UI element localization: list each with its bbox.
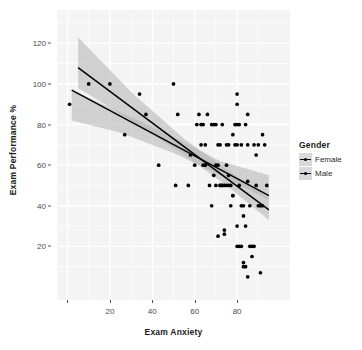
data-point <box>235 92 239 96</box>
data-point <box>199 143 203 147</box>
data-point <box>246 180 250 184</box>
data-point <box>216 163 220 167</box>
data-point <box>265 184 269 188</box>
data-point <box>227 143 231 147</box>
data-point <box>216 234 220 238</box>
scatter-plot-figure: Exam Performance % 20406080100120 204060… <box>0 0 362 350</box>
x-tick-label: 80 <box>233 307 242 316</box>
data-point <box>231 194 235 198</box>
data-point <box>87 82 91 86</box>
data-point <box>246 275 250 279</box>
legend-key-icon <box>299 167 312 180</box>
data-point <box>172 82 176 86</box>
legend: Gender FemaleMale <box>299 140 361 181</box>
data-point <box>246 143 250 147</box>
data-point <box>237 184 241 188</box>
data-point <box>227 173 231 177</box>
data-point <box>223 184 227 188</box>
y-tick-label: 80 <box>18 120 46 129</box>
data-point <box>176 113 180 117</box>
y-axis-title-text: Exam Performance % <box>8 105 18 196</box>
data-point <box>144 113 148 117</box>
data-point <box>252 245 256 249</box>
data-point <box>229 204 233 208</box>
data-point <box>263 143 267 147</box>
y-tick-mark <box>48 43 51 44</box>
data-point <box>237 123 241 127</box>
x-tick-mark <box>152 300 153 303</box>
data-point <box>220 123 224 127</box>
data-point <box>214 184 218 188</box>
data-point <box>231 133 235 137</box>
legend-item-male[interactable]: Male <box>299 167 361 180</box>
data-point <box>239 245 243 249</box>
legend-item-label: Male <box>315 169 332 178</box>
data-point <box>235 102 239 106</box>
data-point <box>193 163 197 167</box>
data-point <box>254 184 258 188</box>
y-tick-label: 120 <box>18 39 46 48</box>
legend-items: FemaleMale <box>299 153 361 180</box>
legend-item-label: Female <box>315 155 342 164</box>
data-point <box>261 133 265 137</box>
x-axis-tick-labels: 20406080 <box>57 300 290 322</box>
data-point <box>195 123 199 127</box>
data-point <box>208 184 212 188</box>
y-tick-mark <box>48 83 51 84</box>
regression-line-male <box>72 90 269 196</box>
y-tick-label: 60 <box>18 161 46 170</box>
data-point <box>212 173 216 177</box>
legend-item-female[interactable]: Female <box>299 153 361 166</box>
data-point <box>214 123 218 127</box>
data-point <box>206 113 210 117</box>
data-point <box>250 255 254 259</box>
data-point <box>223 228 227 232</box>
x-axis-title-text: Exam Anxiety <box>145 327 203 337</box>
data-point <box>203 163 207 167</box>
data-point <box>157 163 161 167</box>
plot-panel <box>57 10 290 300</box>
y-axis-tick-marks <box>46 0 51 300</box>
data-point <box>201 123 205 127</box>
data-point <box>261 204 265 208</box>
data-point <box>108 82 112 86</box>
data-point <box>189 153 193 157</box>
y-tick-label: 20 <box>18 242 46 251</box>
data-point <box>123 133 127 137</box>
data-point <box>229 184 233 188</box>
data-point <box>248 204 252 208</box>
data-point <box>138 92 142 96</box>
data-point <box>244 265 248 269</box>
x-tick-label: 20 <box>105 307 114 316</box>
y-axis-tick-labels: 20406080100120 <box>18 0 46 300</box>
data-point <box>186 184 190 188</box>
data-point <box>218 143 222 147</box>
data-point <box>254 153 258 157</box>
data-point <box>197 113 201 117</box>
data-point <box>259 271 263 275</box>
legend-key-point <box>304 172 307 175</box>
y-tick-label: 100 <box>18 79 46 88</box>
data-point <box>235 224 239 228</box>
data-point <box>244 123 248 127</box>
y-tick-label: 40 <box>18 201 46 210</box>
data-point <box>68 102 72 106</box>
data-point <box>252 143 256 147</box>
y-tick-mark <box>48 205 51 206</box>
legend-key-icon <box>299 153 312 166</box>
legend-title: Gender <box>299 140 361 150</box>
x-tick-label: 40 <box>148 307 157 316</box>
data-point <box>210 204 214 208</box>
data-point <box>203 143 207 147</box>
x-tick-mark <box>195 300 196 303</box>
legend-key-point <box>304 158 307 161</box>
data-point <box>235 143 239 147</box>
data-point <box>242 214 246 218</box>
y-tick-mark <box>48 165 51 166</box>
plot-canvas <box>57 10 290 300</box>
x-tick-mark <box>67 300 68 303</box>
x-tick-mark <box>110 300 111 303</box>
y-tick-mark <box>48 124 51 125</box>
x-axis-title: Exam Anxiety <box>57 327 290 337</box>
data-point <box>239 143 243 147</box>
